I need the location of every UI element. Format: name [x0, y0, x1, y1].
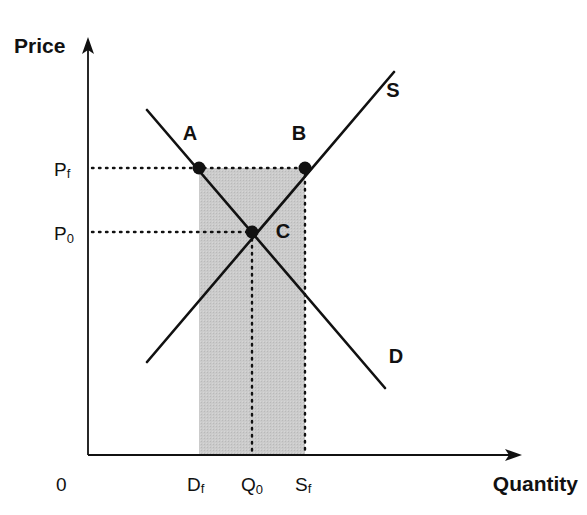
supply-curve-label: S — [386, 79, 399, 101]
point-a-marker — [193, 162, 206, 175]
point-c-label: C — [276, 220, 290, 242]
point-c-marker — [246, 226, 259, 239]
point-a-label: A — [183, 122, 197, 144]
demand-curve-label: D — [389, 345, 403, 367]
q0-tick-label: Q0 — [241, 474, 263, 497]
pf-tick-label: Pf — [54, 159, 71, 181]
point-b-label: B — [292, 122, 306, 144]
sf-tick-label: Sf — [295, 474, 312, 496]
point-b-marker — [299, 162, 312, 175]
supply-demand-chart: A B C S D Price Quantity 0 Pf P0 Df Q0 S… — [0, 0, 587, 515]
y-axis-title: Price — [14, 34, 65, 57]
origin-label: 0 — [56, 474, 67, 495]
df-tick-label: Df — [187, 474, 205, 496]
p0-tick-label: P0 — [54, 223, 74, 246]
x-axis-title: Quantity — [493, 472, 578, 495]
